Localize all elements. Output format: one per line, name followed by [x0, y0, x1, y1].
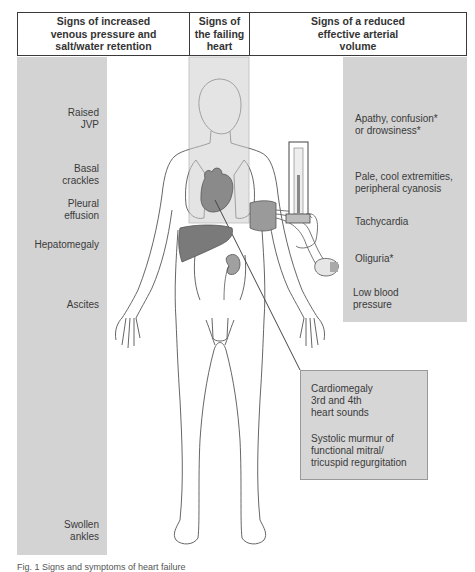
label-line: Cardiomegaly [311, 383, 373, 395]
sign-pale-extremities: Pale, cool extremities, peripheral cyano… [355, 171, 470, 195]
label-line: Pleural [17, 198, 99, 210]
label-line: crackles [17, 175, 99, 187]
label-line: Hepatomegaly [17, 239, 99, 251]
sign-basal-crackles: Basal crackles [17, 163, 99, 187]
sign-raised-jvp: Raised JVP [17, 107, 99, 131]
label-line: heart sounds [311, 407, 373, 419]
sign-pleural-effusion: Pleural effusion [17, 198, 99, 222]
label-line: Tachycardia [355, 216, 467, 228]
sign-cardiomegaly: Cardiomegaly 3rd and 4th heart sounds [311, 383, 373, 419]
label-line: pressure [353, 299, 465, 311]
figure-caption: Fig. 1 Signs and symptoms of heart failu… [17, 562, 186, 572]
label-line: tricuspid regurgitation [311, 457, 407, 469]
sign-apathy-confusion: Apathy, confusion* or drowsiness* [355, 113, 467, 137]
sign-hepatomegaly: Hepatomegaly [17, 239, 99, 251]
label-line: Swollen [17, 519, 99, 531]
label-line: Systolic murmur of [311, 433, 407, 445]
label-line: Apathy, confusion* [355, 113, 467, 125]
label-line: or drowsiness* [355, 125, 467, 137]
label-line: ankles [17, 531, 99, 543]
label-line: Basal [17, 163, 99, 175]
liver-icon [179, 225, 233, 262]
label-line: effusion [17, 210, 99, 222]
sign-swollen-ankles: Swollen ankles [17, 519, 99, 543]
kidney-icon [226, 254, 240, 274]
label-line: functional mitral/ [311, 445, 407, 457]
label-line: JVP [17, 119, 99, 131]
sign-tachycardia: Tachycardia [355, 216, 467, 228]
sign-oliguria: Oliguria* [355, 253, 467, 265]
label-line: Pale, cool extremities, [355, 171, 470, 183]
failing-heart-signs-box: Cardiomegaly 3rd and 4th heart sounds Sy… [300, 370, 428, 480]
label-line: peripheral cyanosis [355, 183, 470, 195]
label-line: Ascites [17, 299, 99, 311]
bp-cuff-icon [250, 201, 276, 231]
label-line: Low blood [353, 287, 465, 299]
sign-low-blood-pressure: Low blood pressure [353, 287, 465, 311]
sign-systolic-murmur: Systolic murmur of functional mitral/ tr… [311, 433, 407, 469]
label-line: 3rd and 4th [311, 395, 373, 407]
label-line: Oliguria* [355, 253, 467, 265]
sign-ascites: Ascites [17, 299, 99, 311]
label-line: Raised [17, 107, 99, 119]
